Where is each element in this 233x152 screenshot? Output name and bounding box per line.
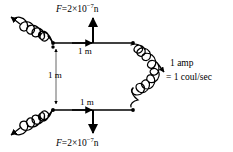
current-label-line2: = 1 coul/sec: [166, 72, 212, 83]
force-label-bottom-exponent: −7: [87, 136, 94, 143]
junction-dot: [51, 41, 55, 45]
coil-top-left-icon: [14, 17, 52, 42]
coil-right-icon: [131, 44, 159, 107]
junction-dot: [131, 108, 135, 112]
force-label-top-unit: n: [94, 4, 99, 14]
junction-dot: [131, 41, 135, 45]
distance-label-top: 1 m: [78, 46, 92, 56]
force-label-top-base: 10: [77, 4, 87, 14]
force-label-bottom-base: 10: [77, 138, 87, 148]
force-label-top: F=2×10−7n: [56, 2, 99, 15]
distance-label-left: 1 m: [48, 70, 62, 80]
current-label-line1: 1 amp: [170, 58, 193, 69]
coil-bottom-left-icon: [14, 110, 52, 135]
force-label-top-exponent: −7: [87, 2, 94, 9]
force-label-bottom: F=2×10−7n: [56, 136, 99, 149]
physics-diagram: F=2×10−7n F=2×10−7n 1 m 1 m 1 m 1 amp = …: [0, 0, 233, 152]
force-label-bottom-unit: n: [94, 138, 99, 148]
junction-dot: [51, 45, 54, 48]
junction-dot: [51, 108, 55, 112]
distance-label-bottom: 1 m: [80, 97, 94, 107]
